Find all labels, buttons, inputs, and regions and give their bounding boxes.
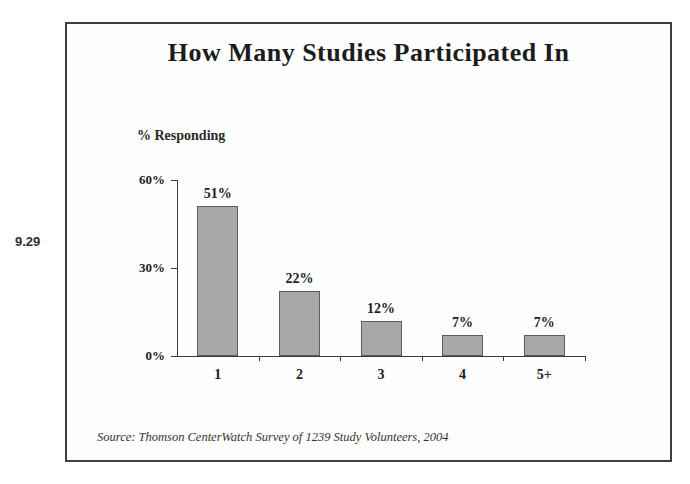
x-axis-category-label: 4 (422, 367, 504, 383)
figure-number: 9.29 (15, 234, 40, 249)
bar (524, 335, 565, 356)
bar (197, 206, 238, 356)
y-axis-tick-label: 60% (125, 172, 165, 188)
bar (361, 321, 402, 356)
y-axis-line (177, 180, 178, 357)
x-axis-tick (422, 356, 423, 361)
bar (279, 291, 320, 356)
bar-value-label: 12% (340, 301, 422, 317)
x-axis-category-label: 1 (177, 367, 259, 383)
slide-canvas: 9.29 How Many Studies Participated In % … (0, 0, 690, 484)
bar-value-label: 22% (259, 271, 341, 287)
bar-value-label: 51% (177, 186, 259, 202)
x-axis-tick (340, 356, 341, 361)
x-axis-tick (585, 356, 586, 361)
plot-area: 0%30%60%51%122%212%37%47%5+ (67, 24, 670, 460)
source-note: Source: Thomson CenterWatch Survey of 12… (97, 430, 448, 445)
x-axis-tick (503, 356, 504, 361)
x-axis-tick (259, 356, 260, 361)
y-axis-tick-label: 30% (125, 260, 165, 276)
x-axis-category-label: 2 (259, 367, 341, 383)
bar-value-label: 7% (503, 315, 585, 331)
y-axis-tick (171, 268, 177, 269)
bar-value-label: 7% (422, 315, 504, 331)
bar (442, 335, 483, 356)
chart-frame: How Many Studies Participated In % Respo… (65, 22, 672, 462)
x-axis-category-label: 5+ (503, 367, 585, 383)
x-axis-line (177, 356, 586, 357)
y-axis-tick (171, 180, 177, 181)
y-axis-tick (171, 356, 177, 357)
y-axis-tick-label: 0% (125, 348, 165, 364)
x-axis-category-label: 3 (340, 367, 422, 383)
